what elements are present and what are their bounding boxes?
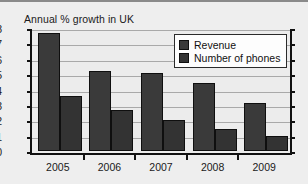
- y-axis-tick: [290, 44, 295, 46]
- bar-2009-revenue: [244, 103, 266, 151]
- x-axis-label-2008: 2008: [190, 161, 236, 173]
- y-axis-tick: [27, 60, 32, 62]
- x-axis-tick: [134, 155, 136, 160]
- y-axis-tick: [290, 106, 295, 108]
- y-axis-tick: [27, 29, 32, 31]
- x-axis-label-2006: 2006: [86, 161, 132, 173]
- x-axis-label-2007: 2007: [138, 161, 184, 173]
- bar-2006-phones: [111, 110, 133, 152]
- bar-2008-phones: [215, 129, 237, 151]
- legend-swatch-revenue: [179, 40, 189, 50]
- y-axis-tick-label: 7: [0, 38, 2, 50]
- y-axis-tick: [290, 152, 295, 154]
- y-axis-tick: [27, 121, 32, 123]
- bar-group: [89, 30, 133, 151]
- bar-group: [38, 30, 82, 151]
- y-axis-tick: [290, 75, 295, 77]
- x-axis-label-2005: 2005: [35, 161, 81, 173]
- bar-2005-revenue: [38, 33, 60, 151]
- y-axis-tick: [27, 75, 32, 77]
- y-axis-tick: [290, 29, 295, 31]
- y-axis-tick-label: 5: [0, 69, 2, 81]
- y-axis-tick: [27, 91, 32, 93]
- y-axis-tick-label: 2: [0, 115, 2, 127]
- legend-item: Number of phones: [179, 51, 280, 64]
- bar-2007-revenue: [141, 73, 163, 151]
- y-axis-tick: [290, 137, 295, 139]
- chart-legend: Revenue Number of phones: [174, 34, 287, 68]
- chart-title: Annual % growth in UK: [24, 13, 134, 25]
- bar-2007-phones: [163, 120, 185, 151]
- y-axis-tick: [290, 121, 295, 123]
- y-axis-tick-label: 6: [0, 54, 2, 66]
- y-axis-tick-label: 4: [0, 85, 2, 97]
- x-axis-tick: [83, 155, 85, 160]
- legend-item: Revenue: [179, 38, 280, 51]
- bar-2009-phones: [266, 136, 288, 151]
- y-axis-tick-label: 3: [0, 100, 2, 112]
- legend-label-number-of-phones: Number of phones: [194, 52, 280, 64]
- y-axis-tick-label: 0: [0, 146, 2, 158]
- x-axis-tick: [237, 155, 239, 160]
- bar-2005-phones: [60, 96, 82, 151]
- legend-swatch-number-of-phones: [179, 53, 189, 63]
- y-axis-tick: [290, 91, 295, 93]
- x-axis-tick: [186, 155, 188, 160]
- chart-figure: Annual % growth in UK 012345678 20052006…: [0, 0, 308, 184]
- y-axis-tick: [27, 44, 32, 46]
- y-axis-tick: [27, 152, 32, 154]
- legend-label-revenue: Revenue: [194, 39, 236, 51]
- bar-2006-revenue: [89, 71, 111, 151]
- y-axis-tick: [27, 137, 32, 139]
- y-axis-tick: [27, 106, 32, 108]
- x-axis-label-2009: 2009: [241, 161, 287, 173]
- bar-2008-revenue: [193, 83, 215, 151]
- y-axis-tick-label: 8: [0, 23, 2, 35]
- y-axis-tick: [290, 60, 295, 62]
- y-axis-tick-label: 1: [0, 131, 2, 143]
